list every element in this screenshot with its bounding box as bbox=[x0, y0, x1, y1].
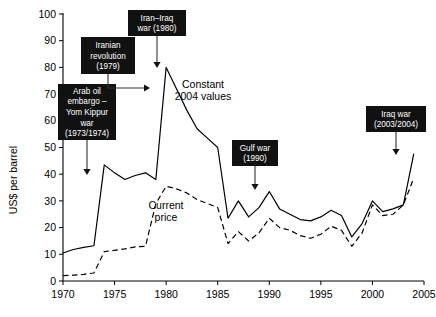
y-tick-label: 70 bbox=[44, 88, 56, 100]
x-tick-label: 1985 bbox=[206, 288, 230, 300]
annotation-iraq-war: Iraq war(2003/2004) bbox=[366, 106, 426, 155]
y-tick-label: 40 bbox=[44, 168, 56, 180]
x-axis: 19701975198019851990199520002005 bbox=[51, 281, 436, 300]
x-tick-label: 1970 bbox=[51, 288, 75, 300]
x-tick-label: 1990 bbox=[258, 288, 282, 300]
annotation-arrow-icon bbox=[83, 169, 90, 175]
x-tick-label: 1975 bbox=[103, 288, 127, 300]
chart-canvas: US$ per barrel 0102030405060708090100 19… bbox=[0, 0, 436, 317]
annotation-arrow-icon bbox=[392, 149, 399, 155]
annotation-gulf-war: Gulf war(1990) bbox=[232, 140, 278, 190]
annotation-label: Iran–Iraqwar (1980) bbox=[136, 14, 176, 34]
y-tick-label: 20 bbox=[44, 221, 56, 233]
x-tick-label: 1980 bbox=[154, 288, 178, 300]
oil-price-chart: US$ per barrel 0102030405060708090100 19… bbox=[0, 0, 436, 317]
annotation-arab-oil-embargo: Arab oilembargo –Yom Kippurwar(1973/1974… bbox=[58, 84, 116, 175]
annotation-iran-iraq-war: Iran–Iraqwar (1980) bbox=[128, 10, 186, 68]
annotation-label: Gulf war(1990) bbox=[240, 144, 271, 164]
annotation-arrow-icon bbox=[251, 184, 258, 190]
annotation-arrow-icon bbox=[153, 62, 160, 68]
annotations-layer: Arab oilembargo –Yom Kippurwar(1973/1974… bbox=[58, 10, 426, 190]
x-tick-label: 2000 bbox=[361, 288, 385, 300]
x-tick-label: 2005 bbox=[412, 288, 436, 300]
y-tick-label: 100 bbox=[38, 8, 56, 20]
annotation-arrow-icon bbox=[144, 84, 150, 91]
y-tick-label: 10 bbox=[44, 248, 56, 260]
y-axis: 0102030405060708090100 bbox=[38, 8, 63, 287]
y-tick-label: 80 bbox=[44, 61, 56, 73]
y-axis-title: US$ per barrel bbox=[7, 146, 19, 214]
y-tick-label: 30 bbox=[44, 195, 56, 207]
series-label-current-price: Currentprice bbox=[148, 199, 183, 223]
y-tick-label: 90 bbox=[44, 34, 56, 46]
x-tick-label: 1995 bbox=[309, 288, 333, 300]
annotation-iranian-revolution: Iranianrevolution(1979) bbox=[81, 37, 150, 92]
series-inline-labels: Constant2004 valuesCurrentprice bbox=[148, 78, 231, 223]
y-tick-label: 50 bbox=[44, 141, 56, 153]
series-line-current-price bbox=[63, 178, 414, 275]
y-tick-label: 60 bbox=[44, 114, 56, 126]
series-label-constant-2004: Constant2004 values bbox=[175, 78, 232, 102]
y-tick-label: 0 bbox=[50, 275, 56, 287]
